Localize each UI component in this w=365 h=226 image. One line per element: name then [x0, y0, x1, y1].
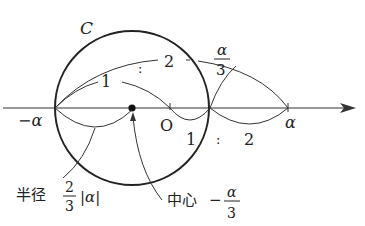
circle-label: C — [80, 18, 93, 38]
ratio-bottom-left: 1 — [186, 130, 196, 149]
alpha-third-den: 3 — [216, 61, 226, 79]
ratio-top-right: 2 — [164, 52, 174, 71]
ratio-bottom-right: 2 — [244, 130, 254, 149]
center-frac-den: 3 — [227, 205, 236, 221]
ratio-bottom-sep: : — [216, 132, 220, 147]
radius-text: 半径 — [16, 186, 46, 204]
center-text: 中心 — [167, 191, 197, 209]
ratio-top-sep: : — [138, 61, 142, 76]
radius-frac-num: 2 — [65, 179, 74, 195]
center-sign: − — [209, 191, 222, 209]
apollonius-circle-diagram: C 1 : 2 α 3 −α O α 1 : 2 半径 2 3 |α| 中心 −… — [0, 0, 365, 226]
ratio-top-left: 1 — [101, 72, 111, 91]
alpha-label: α — [285, 113, 296, 132]
origin-label: O — [160, 116, 173, 135]
neg-alpha-label: −α — [18, 111, 42, 130]
alpha-third-num: α — [217, 41, 227, 59]
radius-abs: |α| — [80, 188, 100, 206]
radius-frac-den: 3 — [65, 198, 74, 214]
center-frac-num: α — [227, 184, 237, 200]
